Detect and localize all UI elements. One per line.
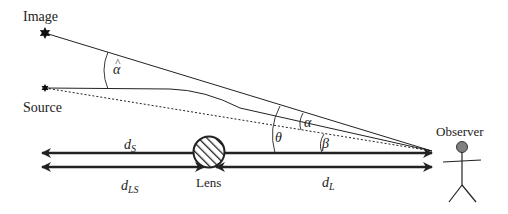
beta-label: β [321, 136, 329, 151]
gravitational-lensing-diagram: Image Source Observer Lens ^ α θ α β dS … [0, 0, 508, 214]
true-direction-line [45, 88, 432, 151]
theta-label: θ [275, 130, 282, 145]
image-ray-line [45, 33, 432, 151]
image-label: Image [23, 9, 58, 24]
alpha-hat-label: α [113, 62, 121, 77]
observer-figure-icon [443, 142, 481, 203]
lens-label: Lens [196, 175, 221, 190]
alpha-label: α [304, 115, 312, 130]
alpha-hat-arc [104, 52, 108, 89]
d-ls-label: dLS [121, 178, 139, 195]
observer-label: Observer [436, 124, 484, 139]
image-star-icon [40, 27, 50, 39]
d-s-label: dS [124, 137, 136, 154]
lens-icon [194, 137, 225, 168]
source-label: Source [23, 100, 62, 115]
d-l-label: dL [322, 175, 335, 192]
